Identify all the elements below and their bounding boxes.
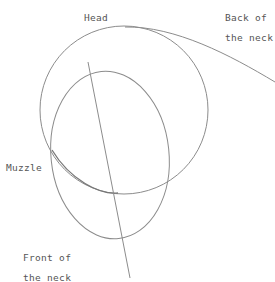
muzzle-cheek-curve <box>52 150 118 193</box>
center-axis-line <box>88 62 130 278</box>
label-back-of-neck-1: Back of <box>225 10 267 25</box>
muzzle-ellipse <box>43 65 178 244</box>
label-muzzle: Muzzle <box>6 160 42 175</box>
head-circle <box>40 26 208 194</box>
label-front-of-neck-1: Front of <box>23 250 71 265</box>
label-back-of-neck-2: the neck <box>225 30 273 45</box>
label-front-of-neck-2: the neck <box>23 270 71 282</box>
label-head: Head <box>84 10 108 25</box>
